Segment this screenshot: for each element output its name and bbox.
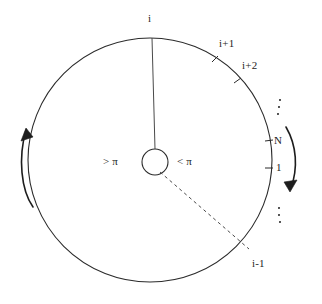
ellipsis-upper-dot-1	[279, 99, 281, 101]
node-label-i-minus-1: i-1	[252, 258, 265, 269]
ellipsis-lower-dot-2	[278, 214, 280, 216]
ellipsis-lower-dot-3	[279, 221, 281, 223]
tick-mark-N	[265, 140, 273, 141]
node-label-i-plus-2: i+2	[242, 60, 257, 71]
node-label-N: N	[274, 135, 282, 146]
angle-label-greater-pi: > π	[103, 156, 118, 167]
clockwise-arrow-head	[284, 180, 297, 192]
counterclockwise-arrow-shaft	[22, 130, 33, 207]
ellipsis-upper-dot-3	[277, 113, 279, 115]
angle-label-less-pi: < π	[177, 156, 192, 167]
node-label-i: i	[148, 13, 151, 24]
ellipsis-lower-dot-1	[278, 207, 280, 209]
reference-radius-line	[152, 38, 155, 149]
clockwise-arrow-shaft	[286, 127, 295, 188]
node-label-i-plus-1: i+1	[219, 38, 234, 49]
tick-mark-i-plus-2	[234, 78, 241, 83]
node-label-1: 1	[276, 162, 282, 173]
outer-ring-circle	[28, 38, 272, 282]
ring-diagram-canvas	[0, 0, 322, 304]
center-hub-circle	[142, 149, 168, 175]
dashed-radius-line	[160, 172, 249, 249]
ellipsis-upper-dot-2	[278, 106, 280, 108]
ring-diagram: i i+1 i+2 N 1 i-1 > π < π	[0, 0, 322, 304]
